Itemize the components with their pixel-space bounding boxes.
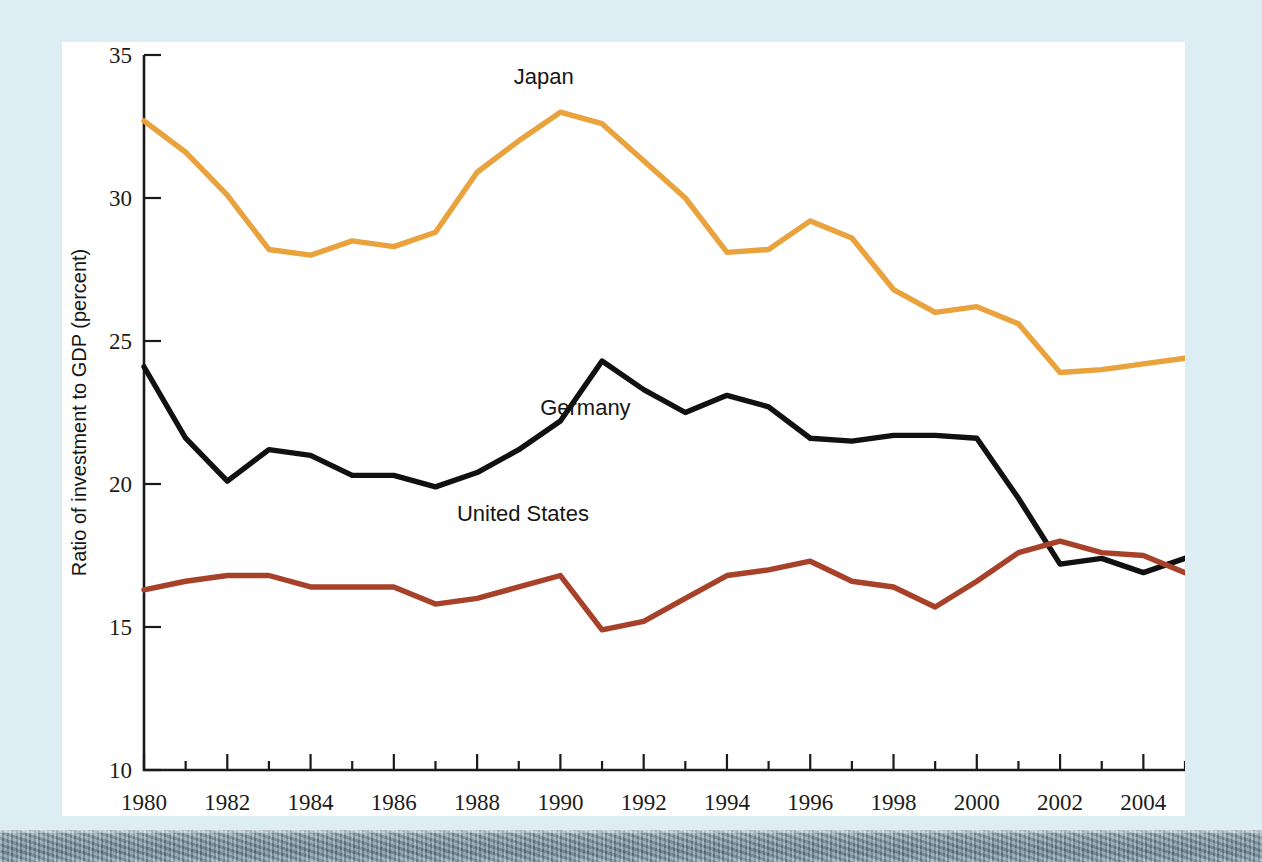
y-axis-tick-label: 35 — [109, 43, 132, 68]
series-line-united-states — [144, 541, 1185, 630]
y-axis-tick-label: 20 — [109, 472, 132, 497]
series-label-japan: Japan — [514, 64, 574, 89]
page-edge-texture — [0, 830, 1262, 862]
y-axis-tick-label: 30 — [109, 186, 132, 211]
figure-container: 1015202530351980198219841986198819901992… — [0, 0, 1262, 862]
x-axis-tick-label: 2002 — [1037, 790, 1083, 815]
x-axis-tick-label: 1984 — [288, 790, 335, 815]
x-axis-tick-label: 2000 — [954, 790, 1000, 815]
y-axis-title: Ratio of investment to GDP (percent) — [68, 249, 90, 577]
x-axis-tick-label: 1982 — [204, 790, 250, 815]
x-axis-tick-label: 1996 — [787, 790, 833, 815]
x-axis-tick-label: 1998 — [871, 790, 917, 815]
series-label-united-states: United States — [457, 501, 589, 526]
chart-plot-panel: 1015202530351980198219841986198819901992… — [62, 42, 1185, 816]
x-axis-tick-label: 1988 — [454, 790, 500, 815]
line-chart: 1015202530351980198219841986198819901992… — [62, 42, 1185, 816]
x-axis-tick-label: 1992 — [621, 790, 667, 815]
series-label-germany: Germany — [540, 395, 630, 420]
x-axis-tick-label: 1980 — [121, 790, 167, 815]
x-axis-tick-label: 2004 — [1120, 790, 1167, 815]
y-axis-tick-label: 10 — [109, 758, 132, 783]
series-line-germany — [144, 361, 1185, 573]
x-axis-tick-label: 1994 — [704, 790, 751, 815]
y-axis-tick-label: 15 — [109, 615, 132, 640]
y-axis-tick-label: 25 — [109, 329, 132, 354]
series-line-japan — [144, 112, 1185, 372]
x-axis-tick-label: 1986 — [371, 790, 417, 815]
axis-spines — [144, 55, 1185, 770]
x-axis-tick-label: 1990 — [537, 790, 583, 815]
